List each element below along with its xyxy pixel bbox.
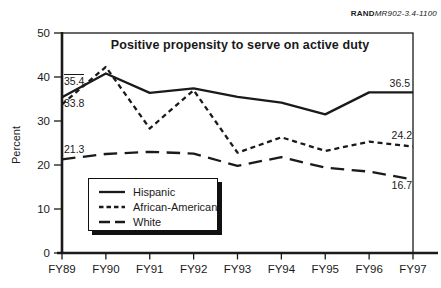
short-dash-line-sample-icon [98,203,126,211]
legend-label-white: White [133,216,161,228]
long-dash-line-sample-icon [98,218,126,226]
data-label-16.7: 16.7 [392,180,412,191]
rand-propensity-figure: RANDMR902-3.4-1100 01020304050FY89FY90FY… [0,0,441,288]
y-tick-label: 0 [44,247,50,259]
legend-item-white: White [98,214,217,229]
x-tick-label: FY95 [312,263,340,275]
y-tick-label: 20 [37,159,50,171]
x-tick-label: FY92 [180,263,208,275]
x-tick-label: FY90 [92,263,120,275]
legend-label-african-american: African-American [133,201,217,213]
series-line-african-american [62,67,413,153]
legend-label-hispanic: Hispanic [133,186,175,198]
series-line-white [62,152,413,180]
y-tick-label: 10 [37,203,50,215]
y-axis-title: Percent [10,121,24,169]
data-label-24.2: 24.2 [392,130,412,141]
y-tick-label: 40 [37,71,50,83]
y-tick-label: 50 [37,27,50,39]
x-tick-label: FY97 [399,263,427,275]
legend: Hispanic African-American White [88,178,218,231]
x-tick-label: FY91 [136,263,164,275]
x-tick-label: FY93 [224,263,252,275]
legend-item-hispanic: Hispanic [98,184,217,199]
x-tick-label: FY96 [355,263,383,275]
data-label-33.8: 33.8 [64,98,84,109]
x-tick-label: FY89 [48,263,76,275]
data-label-36.5: 36.5 [390,78,410,89]
chart-title: Positive propensity to serve on active d… [111,38,370,52]
solid-line-sample-icon [98,188,126,196]
data-label-21.3: 21.3 [64,144,84,155]
y-tick-label: 30 [37,115,50,127]
x-tick-label: FY94 [268,263,296,275]
legend-item-african-american: African-American [98,199,217,214]
data-label-35.4: 35.4 [64,74,84,87]
